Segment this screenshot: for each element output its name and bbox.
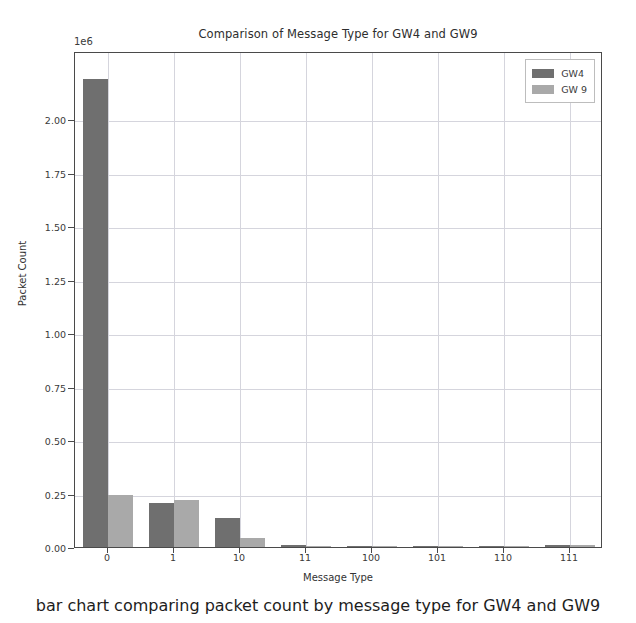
chart-figure: Comparison of Message Type for GW4 and G… bbox=[0, 0, 636, 623]
bar-GW9-111 bbox=[570, 545, 595, 547]
gridline-vertical bbox=[306, 53, 307, 547]
bar-GW4-1 bbox=[149, 503, 174, 547]
gridline-horizontal bbox=[75, 389, 601, 390]
x-tick-mark bbox=[503, 548, 504, 553]
y-axis-title: Packet Count bbox=[17, 226, 28, 322]
gridline-vertical bbox=[504, 53, 505, 547]
plot-area: GW4 GW 9 bbox=[74, 52, 602, 548]
y-tick-mark bbox=[68, 334, 74, 335]
x-tick-mark bbox=[437, 548, 438, 553]
figure-caption: bar chart comparing packet count by mess… bbox=[0, 596, 636, 623]
gridline-horizontal bbox=[75, 121, 601, 122]
x-tick-label: 101 bbox=[428, 552, 446, 563]
y-tick-mark bbox=[68, 174, 74, 175]
y-tick-label: 0.50 bbox=[45, 436, 66, 447]
bar-GW4-10 bbox=[215, 518, 240, 547]
x-tick-mark bbox=[239, 548, 240, 553]
gridline-vertical bbox=[108, 53, 109, 547]
y-tick-mark bbox=[68, 120, 74, 121]
gridline-vertical bbox=[174, 53, 175, 547]
bar-GW9-100 bbox=[372, 546, 397, 547]
chart-title: Comparison of Message Type for GW4 and G… bbox=[74, 27, 602, 41]
x-tick-label: 11 bbox=[299, 552, 311, 563]
legend-item: GW4 bbox=[532, 65, 587, 81]
bar-GW9-11 bbox=[306, 546, 331, 547]
bar-GW9-110 bbox=[504, 546, 529, 547]
legend-label: GW 9 bbox=[561, 84, 587, 95]
gridline-horizontal bbox=[75, 496, 601, 497]
bar-GW4-111 bbox=[545, 545, 570, 547]
gridline-vertical bbox=[240, 53, 241, 547]
gridline-vertical bbox=[372, 53, 373, 547]
bar-GW9-101 bbox=[438, 546, 463, 547]
bar-GW9-0 bbox=[108, 495, 133, 547]
x-tick-label: 10 bbox=[233, 552, 245, 563]
y-tick-mark bbox=[68, 548, 74, 549]
gridline-vertical bbox=[438, 53, 439, 547]
bar-GW4-11 bbox=[281, 545, 306, 547]
legend-swatch-gw9 bbox=[532, 85, 554, 94]
gridline-horizontal bbox=[75, 175, 601, 176]
x-tick-label: 110 bbox=[494, 552, 512, 563]
x-axis-title: Message Type bbox=[74, 572, 602, 583]
y-tick-label: 2.00 bbox=[45, 115, 66, 126]
y-axis-offset-label: 1e6 bbox=[74, 36, 93, 47]
y-tick-label: 1.00 bbox=[45, 329, 66, 340]
y-tick-label: 0.75 bbox=[45, 382, 66, 393]
gridline-horizontal bbox=[75, 442, 601, 443]
bar-GW9-10 bbox=[240, 538, 265, 547]
bar-GW4-0 bbox=[83, 79, 108, 547]
bar-GW4-110 bbox=[479, 546, 504, 547]
x-tick-label: 111 bbox=[560, 552, 578, 563]
y-tick-label: 1.75 bbox=[45, 168, 66, 179]
legend-label: GW4 bbox=[561, 68, 584, 79]
x-tick-mark bbox=[371, 548, 372, 553]
gridline-horizontal bbox=[75, 228, 601, 229]
y-axis-tick-labels: 0.000.250.500.751.001.251.501.752.00 bbox=[22, 52, 66, 548]
y-tick-mark bbox=[68, 227, 74, 228]
gridline-horizontal bbox=[75, 335, 601, 336]
y-tick-label: 1.50 bbox=[45, 222, 66, 233]
y-tick-label: 1.25 bbox=[45, 275, 66, 286]
y-tick-mark bbox=[68, 388, 74, 389]
bar-GW4-101 bbox=[413, 546, 438, 547]
x-tick-mark bbox=[569, 548, 570, 553]
y-tick-mark bbox=[68, 441, 74, 442]
legend-swatch-gw4 bbox=[532, 69, 554, 78]
chart-legend: GW4 GW 9 bbox=[525, 59, 595, 103]
y-tick-mark bbox=[68, 281, 74, 282]
y-tick-mark bbox=[68, 495, 74, 496]
x-tick-mark bbox=[305, 548, 306, 553]
x-tick-label: 1 bbox=[170, 552, 176, 563]
x-tick-label: 0 bbox=[104, 552, 110, 563]
y-tick-label: 0.00 bbox=[45, 543, 66, 554]
x-tick-label: 100 bbox=[362, 552, 380, 563]
legend-item: GW 9 bbox=[532, 81, 587, 97]
y-tick-label: 0.25 bbox=[45, 489, 66, 500]
x-tick-mark bbox=[173, 548, 174, 553]
x-axis-tick-labels: 011011100101110111 bbox=[74, 552, 602, 570]
x-tick-mark bbox=[107, 548, 108, 553]
gridline-vertical bbox=[570, 53, 571, 547]
bar-GW4-100 bbox=[347, 546, 372, 547]
gridline-horizontal bbox=[75, 282, 601, 283]
bar-GW9-1 bbox=[174, 500, 199, 547]
